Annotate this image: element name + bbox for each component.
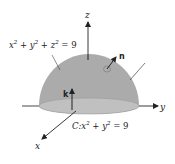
extension-line <box>130 63 145 80</box>
curve-equation-label: C:x2 + y2 = 9 <box>72 120 128 131</box>
x-axis <box>42 111 76 139</box>
hemisphere-diagram: z y x k n x2 + y2 + z2 = 9 C:x2 + y2 = 9 <box>0 0 175 164</box>
x-axis-label: x <box>35 141 40 151</box>
z-axis-label: z <box>84 10 90 20</box>
y-axis-label: y <box>159 102 166 112</box>
k-vector-label: k <box>63 90 69 99</box>
sphere-equation-label: x2 + y2 + z2 = 9 <box>9 39 77 50</box>
normal-vector-label: n <box>119 52 125 61</box>
base-disk <box>39 98 139 114</box>
